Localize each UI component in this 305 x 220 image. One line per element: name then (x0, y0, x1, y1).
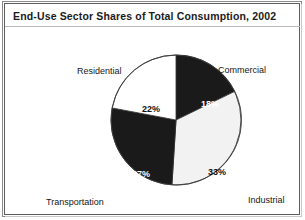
pie-value-commercial: 18% (201, 99, 219, 109)
figure-root: End-Use Sector Shares of Total Consumpti… (0, 0, 305, 220)
pie-label-residential: Residential (77, 66, 122, 76)
pie-chart-area: Commercial Industrial Transportation Res… (5, 27, 300, 215)
pie-label-commercial: Commercial (218, 65, 266, 75)
chart-title: End-Use Sector Shares of Total Consumpti… (13, 10, 276, 22)
pie-chart-svg (5, 27, 300, 215)
pie-label-transportation: Transportation (46, 197, 104, 207)
pie-label-industrial: Industrial (248, 195, 285, 205)
pie-value-industrial: 33% (208, 167, 226, 177)
pie-value-transportation: 27% (132, 169, 150, 179)
pie-value-residential: 22% (142, 104, 160, 114)
